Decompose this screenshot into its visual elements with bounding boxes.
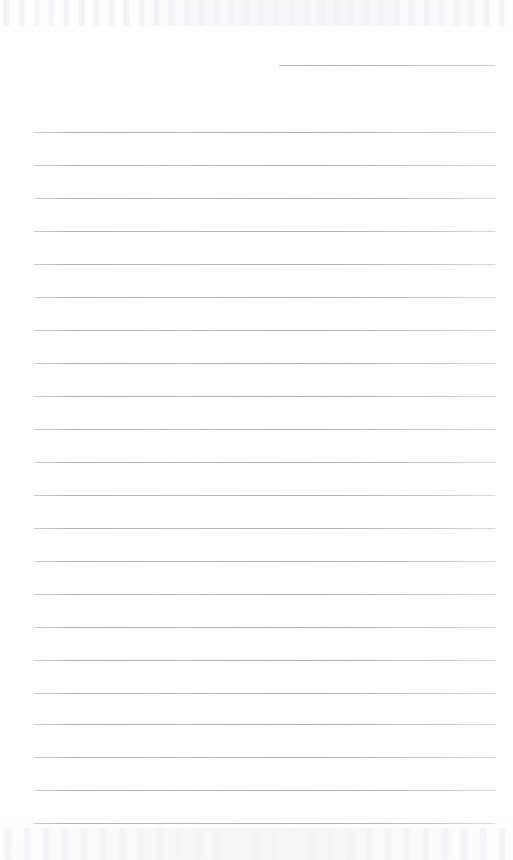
ruled-line [34,528,495,529]
ruled-line [34,429,495,430]
ruled-line [34,561,495,562]
ruled-line [34,297,495,298]
ruled-line [34,627,495,628]
ruled-line [34,231,495,232]
ruled-line [34,132,495,133]
ruled-line [34,660,495,661]
ruled-line [34,724,495,725]
ruled-line [34,330,495,331]
ruled-line [34,264,495,265]
ruled-line-partial [279,65,495,66]
ruled-line [34,594,495,595]
ruled-line [34,363,495,364]
ruled-line [34,823,495,824]
ruled-line [34,757,495,758]
ruled-line [34,495,495,496]
ruled-line [34,198,495,199]
scanned-page [0,0,513,860]
ruled-line [34,165,495,166]
ruled-line [34,462,495,463]
ruled-lines-layer [0,0,513,860]
ruled-line [34,693,495,694]
ruled-line [34,790,495,791]
ruled-line [34,396,495,397]
